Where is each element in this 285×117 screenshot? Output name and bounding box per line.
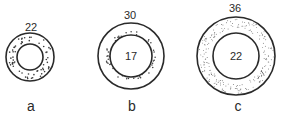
panel-b: 30 17 b (98, 9, 164, 114)
outer-diameter-label-a: 22 (25, 21, 37, 33)
inner-diameter-label-b: 17 (125, 50, 137, 62)
concentric-circles-diagram: 22 a 30 17 b 36 22 c (0, 0, 285, 117)
panel-letter-b: b (128, 98, 136, 114)
panel-a: 22 a (6, 21, 54, 114)
outer-diameter-label-c: 36 (229, 2, 241, 14)
panel-letter-a: a (27, 98, 35, 114)
panel-letter-c: c (235, 98, 242, 114)
inner-diameter-label-c: 22 (230, 50, 242, 62)
inner-circle-a (17, 44, 43, 70)
panel-c: 36 22 c (197, 2, 275, 114)
outer-diameter-label-b: 30 (124, 9, 136, 21)
